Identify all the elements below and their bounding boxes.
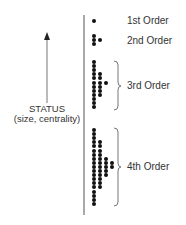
order-label-2nd: 2nd Order <box>127 35 172 46</box>
dot <box>92 81 96 85</box>
dot <box>92 190 96 194</box>
brace-3rd-icon <box>114 61 121 110</box>
dot <box>92 153 96 157</box>
dot <box>110 165 114 169</box>
dot <box>98 81 102 85</box>
order-label-4th: 4th Order <box>127 161 169 172</box>
order-label-1st: 1st Order <box>127 15 169 26</box>
dot <box>92 19 96 23</box>
status-sublabel: (size, centrality) <box>4 114 90 124</box>
dot <box>92 85 96 89</box>
dot <box>92 149 96 153</box>
dot <box>98 85 102 89</box>
dot <box>104 81 108 85</box>
brace-4th-icon <box>114 128 121 206</box>
dot <box>98 149 102 153</box>
dot <box>92 202 96 206</box>
dot <box>98 153 102 157</box>
dot <box>98 93 102 97</box>
dot <box>92 194 96 198</box>
order-label-3rd: 3rd Order <box>127 80 170 91</box>
